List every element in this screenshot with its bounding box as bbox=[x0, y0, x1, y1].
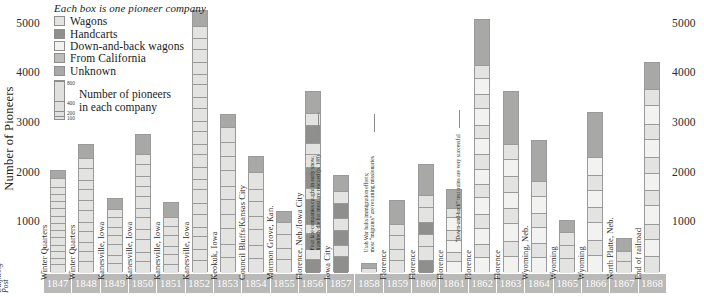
company-segment bbox=[475, 126, 489, 139]
bar-1859[interactable] bbox=[389, 200, 405, 272]
company-segment bbox=[51, 238, 65, 246]
company-segment bbox=[504, 209, 518, 224]
annotation-leader-line bbox=[459, 110, 460, 128]
y-tick-left-5000: 5000 bbox=[14, 17, 40, 29]
bar-1848[interactable] bbox=[78, 144, 94, 272]
legend-item-label: Handcarts bbox=[70, 28, 118, 40]
legend: Each box is one pioneer company WagonsHa… bbox=[54, 2, 206, 77]
annotation-1858: Utah War halts immigration efforts;most … bbox=[363, 156, 375, 252]
outfitting-post-1863: Florence bbox=[493, 250, 502, 280]
bar-1866[interactable] bbox=[587, 112, 603, 272]
company-segment bbox=[221, 229, 235, 245]
company-segment bbox=[419, 165, 433, 195]
y-tick-right-2000: 2000 bbox=[672, 166, 704, 178]
bar-1860[interactable] bbox=[418, 164, 434, 272]
bar-1865[interactable] bbox=[559, 220, 575, 272]
company-segment bbox=[221, 187, 235, 200]
bar-1847[interactable] bbox=[50, 170, 66, 272]
bar-1862[interactable] bbox=[474, 19, 490, 272]
size-scale-caption-line: Number of pioneers bbox=[79, 88, 171, 101]
company-segment bbox=[560, 246, 574, 258]
bar-1867[interactable] bbox=[616, 238, 632, 272]
company-segment bbox=[645, 225, 659, 240]
company-segment bbox=[588, 113, 602, 158]
company-segment bbox=[504, 224, 518, 242]
company-segment bbox=[249, 190, 263, 202]
company-segment bbox=[645, 257, 659, 273]
company-segment bbox=[108, 236, 122, 245]
legend-items: WagonsHandcartsDown-and-back wagonsFrom … bbox=[54, 15, 206, 77]
annotation-line: hundreds die but most are rescued (p. 10… bbox=[314, 155, 320, 250]
y-tick-right-5000: 5000 bbox=[672, 17, 704, 29]
company-segment bbox=[51, 171, 65, 179]
annotation-line: most “migrants” are returning missionari… bbox=[369, 156, 375, 252]
year-column-1866 bbox=[587, 4, 603, 272]
company-segment bbox=[334, 204, 348, 219]
year-column-1855 bbox=[276, 4, 292, 272]
company-segment bbox=[532, 258, 546, 273]
size-scale-caption-line: in each company bbox=[79, 101, 171, 114]
company-segment bbox=[79, 159, 93, 169]
company-segment bbox=[51, 231, 65, 238]
company-segment bbox=[136, 262, 150, 273]
legend-item-down-and-back-wagons[interactable]: Down-and-back wagons bbox=[54, 40, 206, 52]
company-segment bbox=[645, 125, 659, 140]
company-segment bbox=[221, 171, 235, 187]
pioneer-migration-chart: Number of Pioneers 10002000300040005000 … bbox=[0, 0, 704, 297]
company-segment bbox=[136, 240, 150, 253]
bar-1854[interactable] bbox=[248, 156, 264, 272]
company-segment bbox=[504, 257, 518, 273]
bar-1868[interactable] bbox=[644, 62, 660, 272]
company-segment bbox=[164, 203, 178, 218]
company-segment bbox=[390, 250, 404, 260]
bar-1863[interactable] bbox=[503, 91, 519, 272]
company-segment bbox=[51, 252, 65, 259]
legend-item-wagons[interactable]: Wagons bbox=[54, 15, 206, 27]
company-segment bbox=[51, 265, 65, 272]
bar-1849[interactable] bbox=[107, 198, 123, 272]
company-segment bbox=[164, 236, 178, 247]
outfitting-post-1847: Winter Quarters bbox=[40, 225, 49, 280]
size-scale-rule bbox=[54, 101, 65, 102]
bar-1850[interactable] bbox=[135, 134, 151, 272]
legend-item-label: From California bbox=[70, 52, 146, 64]
outfitting-post-1861: Florence bbox=[436, 250, 445, 280]
outfitting-post-1865: Wyoming bbox=[549, 246, 558, 280]
bar-1851[interactable] bbox=[163, 202, 179, 272]
legend-item-unknown[interactable]: Unknown bbox=[54, 65, 206, 77]
outfitting-post-1862: Florence bbox=[464, 250, 473, 280]
annotation-leader-line bbox=[318, 112, 319, 130]
bar-1853[interactable] bbox=[220, 114, 236, 272]
bar-1855[interactable] bbox=[276, 211, 292, 272]
outfitting-post-label-line: Post bbox=[2, 263, 10, 293]
legend-item-handcarts[interactable]: Handcarts bbox=[54, 27, 206, 39]
company-segment bbox=[164, 218, 178, 227]
legend-item-label: Down-and-back wagons bbox=[70, 40, 184, 52]
bar-1857[interactable] bbox=[333, 175, 349, 272]
outfitting-post-1850: Kanesville, Iowa bbox=[125, 222, 134, 280]
company-segment bbox=[334, 231, 348, 245]
company-segment bbox=[475, 139, 489, 155]
outfitting-post-1857: Iowa City bbox=[323, 246, 332, 280]
company-segment bbox=[108, 218, 122, 228]
company-segment bbox=[249, 202, 263, 217]
legend-title: Each box is one pioneer company bbox=[54, 2, 206, 14]
y-axis-title: Number of Pioneers bbox=[0, 4, 19, 272]
company-segment bbox=[79, 169, 93, 180]
company-segment bbox=[390, 201, 404, 225]
size-scale-caption: Number of pioneersin each company bbox=[79, 88, 171, 113]
company-segment bbox=[504, 193, 518, 210]
year-axis: 1847184818491850185118521853185418551856… bbox=[44, 274, 666, 293]
company-segment bbox=[504, 145, 518, 159]
legend-item-from-california[interactable]: From California bbox=[54, 52, 206, 64]
company-segment bbox=[164, 227, 178, 236]
year-column-1854 bbox=[248, 4, 264, 272]
company-segment bbox=[193, 215, 207, 227]
company-segment bbox=[334, 192, 348, 203]
company-segment bbox=[390, 225, 404, 236]
bar-1864[interactable] bbox=[531, 140, 547, 272]
company-segment bbox=[475, 198, 489, 215]
company-segment bbox=[504, 177, 518, 192]
outfitting-post-1855: Mormon Grove, Kan. bbox=[266, 206, 275, 280]
bar-1858[interactable] bbox=[361, 263, 377, 272]
